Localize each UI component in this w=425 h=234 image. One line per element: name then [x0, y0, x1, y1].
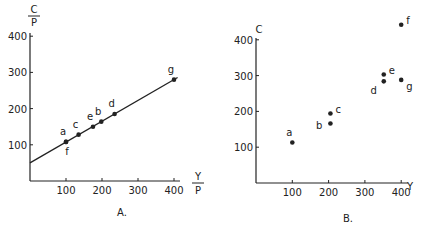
data-point-c	[328, 111, 333, 116]
x-tick-label: 100	[283, 187, 302, 198]
x-tick-label: 300	[355, 187, 374, 198]
y-tick-label: 100	[234, 142, 253, 153]
x-tick-label: 300	[128, 185, 147, 196]
data-point-b	[328, 121, 333, 126]
chart-a-points: afcebdg	[60, 64, 176, 157]
point-label-c: c	[335, 104, 341, 115]
data-point-d	[112, 112, 117, 117]
y-tick-label: 300	[8, 67, 27, 78]
chart-a-xlabel-top: Y	[194, 171, 202, 182]
y-tick-label: 300	[234, 71, 253, 82]
point-label-d: d	[108, 98, 114, 109]
chart-b-axes: 100200300400100200300400	[234, 35, 411, 198]
data-point-e	[91, 124, 96, 129]
point-label-e: e	[87, 111, 93, 122]
chart-a-ylabel-top: C	[31, 4, 38, 15]
x-tick-label: 400	[164, 185, 183, 196]
x-tick-label: 200	[92, 185, 111, 196]
y-tick-label: 200	[8, 104, 27, 115]
figure: 100200300400100200300400 afcebdg C P Y P…	[0, 0, 425, 234]
point-label-f: f	[65, 146, 69, 157]
x-tick-label: 200	[319, 187, 338, 198]
chart-b-points: abcdefg	[286, 15, 412, 145]
point-label-b: b	[95, 106, 101, 117]
point-label-a: a	[60, 126, 66, 137]
data-point-f	[399, 22, 404, 27]
y-tick-label: 100	[8, 140, 27, 151]
point-label-g: g	[168, 64, 174, 75]
data-point-c	[76, 132, 81, 137]
y-tick-label: 200	[234, 106, 253, 117]
point-label-c: c	[73, 119, 79, 130]
chart-a-panel-label: A.	[117, 207, 127, 218]
x-tick-label: 100	[56, 185, 75, 196]
chart-a: 100200300400100200300400 afcebdg C P Y P…	[8, 4, 204, 218]
y-tick-label: 400	[8, 31, 27, 42]
point-label-a: a	[286, 127, 292, 138]
data-point-f	[64, 140, 69, 145]
data-point-b	[99, 119, 104, 124]
chart-b: 100200300400100200300400 abcdefg C Y B.	[234, 15, 414, 224]
chart-b-xlabel: Y	[406, 181, 414, 192]
data-point-a	[290, 140, 295, 145]
data-point-e	[381, 72, 386, 77]
point-label-e: e	[389, 65, 395, 76]
chart-b-panel-label: B.	[343, 213, 353, 224]
point-label-f: f	[406, 15, 410, 26]
data-point-d	[381, 79, 386, 84]
point-label-g: g	[406, 81, 412, 92]
chart-a-xlabel-bottom: P	[195, 185, 201, 196]
data-point-g	[172, 77, 177, 82]
point-label-b: b	[316, 120, 322, 131]
data-point-g	[399, 78, 404, 83]
chart-a-ylabel-bottom: P	[31, 17, 37, 28]
point-label-d: d	[370, 85, 376, 96]
chart-a-regression-line	[30, 78, 178, 163]
chart-b-ylabel: C	[256, 24, 263, 35]
regression-line	[30, 78, 178, 163]
y-tick-label: 400	[234, 35, 253, 46]
